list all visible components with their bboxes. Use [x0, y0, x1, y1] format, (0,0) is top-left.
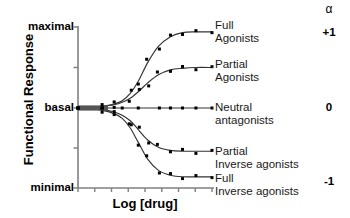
curve-label-partial-agonists: Partial Agonists	[215, 58, 259, 83]
data-point	[156, 70, 159, 73]
data-point	[138, 88, 141, 91]
data-point	[130, 89, 133, 92]
data-point	[137, 83, 140, 86]
curve-label-line: antagonists	[215, 114, 274, 127]
data-point	[113, 100, 116, 103]
data-point	[194, 107, 197, 110]
data-point	[181, 148, 184, 151]
alpha-value-minus-one: -1	[312, 175, 346, 187]
curve-label-line: Inverse agonists	[215, 185, 299, 198]
data-point	[181, 65, 184, 68]
data-point	[194, 68, 197, 71]
data-point	[169, 172, 172, 175]
data-point	[138, 126, 141, 129]
curve-partial-inverse-agonists	[78, 108, 212, 151]
data-point	[194, 152, 197, 155]
data-point	[101, 111, 104, 114]
data-point	[147, 142, 150, 145]
data-point	[145, 58, 148, 61]
data-point	[169, 70, 172, 73]
data-point	[147, 84, 150, 87]
curve-label-line: Agonists	[215, 71, 259, 84]
data-point	[194, 29, 197, 32]
data-point	[113, 106, 116, 109]
data-point	[181, 107, 184, 110]
y-tick-label-maximal: maximal	[28, 20, 74, 32]
curve-label-line: Full	[215, 19, 259, 32]
data-point	[158, 172, 161, 175]
data-point	[145, 154, 148, 157]
curve-label-neutral-antagonists: Neutral antagonists	[215, 101, 274, 126]
data-point	[158, 107, 161, 110]
alpha-value-zero: 0	[312, 101, 346, 113]
data-point	[169, 150, 172, 153]
curve-label-full-inverse-agonists: Full Inverse agonists	[215, 172, 299, 197]
alpha-value-plus-one: +1	[312, 26, 346, 38]
data-point	[181, 33, 184, 36]
curve-partial-agonists	[78, 67, 212, 108]
data-points-layer	[77, 29, 214, 180]
curve-label-line: Full	[215, 172, 299, 185]
curve-full-inverse-agonists	[78, 108, 212, 177]
data-point	[158, 48, 161, 51]
data-point	[77, 107, 80, 110]
curve-label-line: Neutral	[215, 101, 274, 114]
data-point	[121, 107, 124, 110]
y-tick-label-minimal: minimal	[31, 181, 74, 193]
data-point	[101, 103, 104, 106]
curve-label-line: Partial	[215, 58, 259, 71]
x-axis-title: Log [drug]	[78, 196, 212, 211]
data-point	[101, 106, 104, 109]
data-point	[137, 107, 140, 110]
curve-label-line: Partial	[215, 145, 299, 158]
label-leader-layer	[212, 32, 213, 177]
data-point	[169, 107, 172, 110]
data-point	[113, 113, 116, 116]
y-axis-title: Functional Response	[21, 10, 36, 190]
curve-label-line: Agonists	[215, 32, 259, 45]
data-point	[169, 34, 172, 37]
curve-label-partial-inverse-agonists: Partial Inverse agonists	[215, 145, 299, 170]
curves-layer	[78, 32, 212, 177]
data-point	[128, 100, 131, 103]
curve-label-full-agonists: Full Agonists	[215, 19, 259, 44]
data-point	[113, 110, 116, 113]
curve-label-line: Inverse agonists	[215, 158, 299, 171]
data-point	[194, 174, 197, 177]
data-point	[156, 143, 159, 146]
chart-figure: Functional Response maximal basal minima…	[0, 0, 350, 218]
curve-full-agonists	[78, 32, 212, 108]
y-tick-label-basal: basal	[45, 101, 74, 113]
alpha-column-header: α	[312, 2, 346, 16]
data-point	[130, 123, 133, 126]
data-point	[181, 177, 184, 180]
data-point	[137, 144, 140, 147]
